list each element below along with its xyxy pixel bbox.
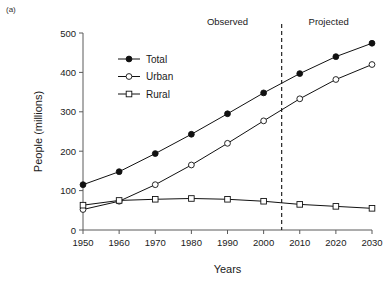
marker-open-circle (225, 140, 231, 146)
x-tick-label: 1990 (217, 237, 238, 248)
marker-filled-circle (261, 90, 267, 96)
panel-label: (a) (6, 5, 16, 14)
legend-item-urban: Urban (118, 71, 173, 82)
marker-filled-circle (297, 71, 303, 77)
marker-filled-circle (369, 40, 375, 46)
marker-filled-circle (152, 151, 158, 157)
y-tick-label: 300 (60, 106, 76, 117)
population-line-chart: 0100200300400500195019601970198019902000… (0, 0, 386, 291)
axes-layer: 0100200300400500195019601970198019902000… (60, 28, 382, 249)
x-tick-label: 1980 (181, 237, 202, 248)
y-axis-title: People (millions) (32, 91, 44, 172)
marker-open-circle (126, 74, 132, 80)
marker-open-square (261, 198, 267, 204)
legend-label: Rural (146, 89, 170, 100)
y-tick-label: 500 (60, 28, 76, 39)
y-tick-label: 0 (71, 225, 76, 236)
marker-filled-circle (333, 54, 339, 60)
annotation-label: Observed (207, 16, 248, 27)
x-tick-label: 1960 (109, 237, 130, 248)
x-axis-title: Years (214, 263, 242, 275)
y-tick-label: 100 (60, 185, 76, 196)
marker-open-square (225, 196, 231, 202)
legend-label: Urban (146, 71, 173, 82)
y-tick-label: 200 (60, 146, 76, 157)
marker-filled-circle (126, 56, 132, 62)
marker-filled-circle (188, 131, 194, 137)
series-path (83, 65, 372, 210)
annotations-layer: ObservedProjected (207, 16, 349, 27)
x-tick-label: 2010 (289, 237, 310, 248)
x-tick-label: 1950 (72, 237, 93, 248)
y-tick-label: 400 (60, 67, 76, 78)
figure-panel: (a) 010020030040050019501960197019801990… (0, 0, 386, 291)
marker-open-square (152, 196, 158, 202)
x-tick-label: 2000 (253, 237, 274, 248)
x-tick-label: 1970 (145, 237, 166, 248)
marker-filled-circle (116, 169, 122, 175)
x-tick-label: 2030 (361, 237, 382, 248)
marker-filled-circle (80, 182, 86, 188)
marker-open-square (126, 91, 132, 97)
marker-open-square (116, 198, 122, 204)
chart-legend: TotalUrbanRural (118, 54, 173, 100)
series-urban (80, 62, 375, 213)
marker-open-square (297, 202, 303, 208)
marker-filled-circle (225, 111, 231, 117)
legend-label: Total (146, 54, 167, 65)
marker-open-circle (297, 96, 303, 102)
legend-item-rural: Rural (118, 89, 170, 100)
marker-open-square (189, 196, 195, 202)
axis-titles-layer: YearsPeople (millions) (32, 91, 242, 275)
marker-open-circle (261, 118, 267, 124)
marker-open-circle (152, 182, 158, 188)
marker-open-circle (333, 77, 339, 83)
series-total (80, 40, 375, 187)
legend-item-total: Total (118, 54, 167, 65)
marker-open-square (80, 202, 86, 208)
annotation-label: Projected (309, 16, 349, 27)
marker-open-square (333, 204, 339, 210)
x-tick-label: 2020 (325, 237, 346, 248)
marker-open-circle (188, 162, 194, 168)
marker-open-circle (369, 62, 375, 68)
series-rural (80, 196, 375, 211)
marker-open-square (369, 206, 375, 212)
series-layer (80, 40, 375, 212)
